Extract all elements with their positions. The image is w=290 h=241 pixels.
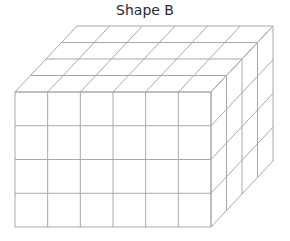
grid-lines (15, 26, 273, 227)
cube-prism-diagram (0, 0, 290, 241)
